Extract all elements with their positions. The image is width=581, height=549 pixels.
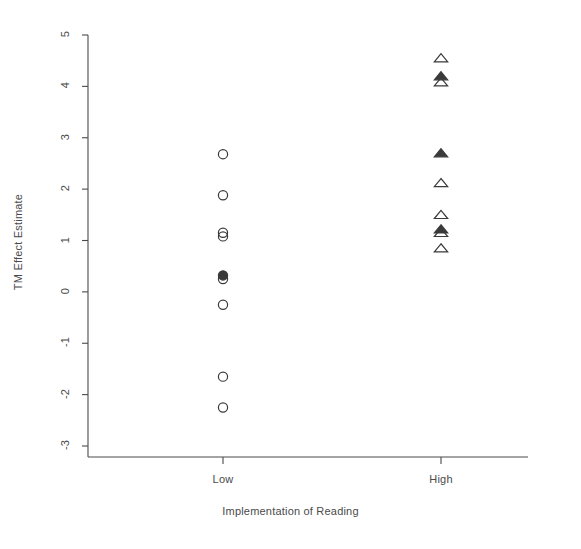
y-axis-tick-label: 2 — [59, 177, 71, 199]
y-axis-title: TM Effect Estimate — [12, 162, 24, 322]
chart-canvas: -3-2-1012345 LowHigh Implementation of R… — [0, 0, 581, 549]
x-axis-tick-label: High — [401, 473, 481, 485]
y-axis-tick-label: 0 — [59, 280, 71, 302]
y-axis-tick-label: 4 — [59, 74, 71, 96]
y-axis-tick-label: 5 — [59, 23, 71, 45]
y-axis-tick-label: 3 — [59, 126, 71, 148]
data-point-triangle — [434, 149, 447, 157]
data-point-triangle — [434, 244, 447, 252]
data-point-circle — [218, 403, 227, 412]
data-point-circle — [218, 150, 227, 159]
data-point-triangle — [434, 179, 447, 187]
y-axis-tick-label: -2 — [59, 383, 71, 405]
data-point-circle — [218, 300, 227, 309]
x-axis-title: Implementation of Reading — [0, 505, 581, 517]
y-axis-tick-label: -1 — [59, 331, 71, 353]
data-point-triangle — [434, 54, 447, 62]
x-axis-tick-label: Low — [183, 473, 263, 485]
y-axis-tick-label: -3 — [59, 434, 71, 456]
scatter-plot-figure — [0, 0, 581, 549]
data-point-circle — [218, 372, 227, 381]
data-point-triangle — [434, 210, 447, 218]
y-axis-tick-label: 1 — [59, 229, 71, 251]
data-point-circle — [218, 191, 227, 200]
